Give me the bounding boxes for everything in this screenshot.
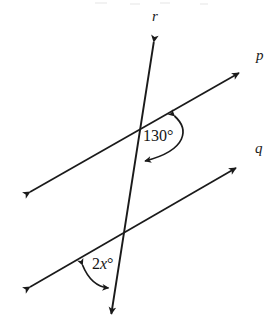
line-label-p: p <box>256 48 264 63</box>
line-p <box>30 73 239 192</box>
line-label-r: r <box>152 9 158 24</box>
angle-2x-coefficient: 2 <box>92 255 100 272</box>
line-label-q: q <box>255 141 263 156</box>
line-q <box>30 168 236 287</box>
angle-label-2x: 2x° <box>92 256 114 272</box>
geometry-canvas <box>0 0 278 334</box>
geometry-diagram: r p q 130° 2x° <box>0 0 278 334</box>
angle-2x-degree-symbol: ° <box>107 255 113 272</box>
line-r <box>111 42 154 314</box>
angle-label-130: 130° <box>143 128 173 144</box>
